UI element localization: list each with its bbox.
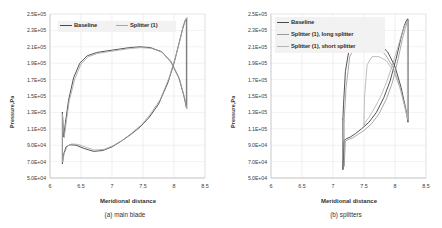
y-tick-label: 7.0E+04: [14, 159, 46, 165]
panel-main-blade: 5.0E+047.0E+049.0E+041.1E+051.3E+051.5E+…: [0, 0, 221, 228]
x-tick-label: 6: [259, 183, 283, 189]
plot-area-a: 5.0E+047.0E+049.0E+041.1E+051.3E+051.5E+…: [0, 0, 221, 228]
y-tick-label: 9.0E+04: [14, 142, 46, 148]
legend-item[interactable]: Baseline: [60, 22, 97, 28]
y-tick-label: 1.9E+05: [14, 60, 46, 66]
legend-line-icon: [277, 22, 289, 23]
x-tick-label: 6: [38, 183, 62, 189]
y-tick-label: 9.0E+04: [235, 142, 267, 148]
panel-splitters: 5.0E+047.0E+049.0E+041.1E+051.3E+051.5E+…: [221, 0, 442, 228]
legend-item[interactable]: Splitter (1), short splitter: [277, 43, 356, 49]
y-tick-label: 1.1E+05: [235, 126, 267, 132]
caption-b: (b) splitters: [251, 211, 441, 218]
legend-line-icon: [60, 25, 72, 26]
x-tick-label: 7.5: [352, 183, 376, 189]
y-tick-label: 1.5E+05: [14, 93, 46, 99]
y-axis-label-b: Pressure,Pa: [230, 96, 236, 128]
y-tick-label: 5.0E+04: [235, 175, 267, 181]
y-tick-label: 1.9E+05: [235, 60, 267, 66]
y-tick-label: 7.0E+04: [235, 159, 267, 165]
y-tick-label: 2.5E+05: [235, 11, 267, 17]
y-axis-label-a: Pressure,Pa: [9, 96, 15, 128]
y-tick-label: 1.3E+05: [235, 109, 267, 115]
y-tick-label: 1.3E+05: [14, 109, 46, 115]
x-tick-label: 6.5: [290, 183, 314, 189]
x-tick-label: 6.5: [69, 183, 93, 189]
x-tick-label: 7: [100, 183, 124, 189]
y-tick-label: 5.0E+04: [14, 175, 46, 181]
legend-label: Splitter (1), short splitter: [291, 43, 356, 49]
y-tick-label: 2.1E+05: [14, 44, 46, 50]
y-tick-label: 2.1E+05: [235, 44, 267, 50]
legend-line-icon: [116, 25, 128, 26]
legend-item[interactable]: Baseline: [277, 19, 314, 25]
plot-area-b: 5.0E+047.0E+049.0E+041.1E+051.3E+051.5E+…: [221, 0, 442, 228]
legend-label: Baseline: [74, 22, 97, 28]
y-tick-label: 1.1E+05: [14, 126, 46, 132]
x-tick-label: 8: [383, 183, 407, 189]
legend-label: Baseline: [291, 19, 314, 25]
y-tick-label: 1.5E+05: [235, 93, 267, 99]
x-axis-label-b: Meridional distance: [271, 198, 427, 204]
legend-item[interactable]: Splitter (1): [116, 22, 157, 28]
y-tick-label: 2.3E+05: [235, 27, 267, 33]
x-tick-label: 8.5: [414, 183, 438, 189]
x-tick-label: 7.5: [131, 183, 155, 189]
legend-line-icon: [277, 34, 289, 35]
y-tick-label: 1.7E+05: [235, 77, 267, 83]
x-tick-label: 7: [321, 183, 345, 189]
y-tick-label: 1.7E+05: [14, 77, 46, 83]
x-tick-label: 8: [162, 183, 186, 189]
legend-item[interactable]: Splitter (1), long splitter: [277, 31, 353, 37]
y-tick-label: 2.5E+05: [14, 11, 46, 17]
legend-label: Splitter (1), long splitter: [291, 31, 353, 37]
x-axis-label-a: Meridional distance: [50, 198, 206, 204]
caption-a: (a) main blade: [30, 211, 220, 218]
legend-label: Splitter (1): [130, 22, 157, 28]
legend-line-icon: [277, 46, 289, 47]
x-tick-label: 8.5: [193, 183, 217, 189]
y-tick-label: 2.3E+05: [14, 27, 46, 33]
figure-blade-loading: 5.0E+047.0E+049.0E+041.1E+051.3E+051.5E+…: [0, 0, 442, 228]
